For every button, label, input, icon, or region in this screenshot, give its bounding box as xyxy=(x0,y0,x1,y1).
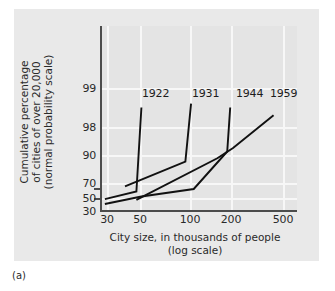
gridline-horizontal-50 xyxy=(101,198,297,200)
series-label-1931: 1931 xyxy=(192,88,219,99)
series-label-1922: 1922 xyxy=(142,88,169,99)
series-label-1959: 1959 xyxy=(270,88,297,99)
y-axis-title: Cumulative percentage of cities of over … xyxy=(18,42,54,202)
gridline-horizontal-98 xyxy=(101,127,297,129)
y-tick-label-99: 99 xyxy=(82,83,96,94)
x-axis-title-line1: City size, in thousands of people xyxy=(80,231,310,244)
x-tick-label-50: 50 xyxy=(133,214,147,226)
y-axis-title-line2: of cities of over 20,000 xyxy=(30,42,42,202)
x-tick-label-200: 200 xyxy=(221,214,241,226)
y-axis-title-line3: (normal probability scale) xyxy=(42,42,54,202)
x-axis-title: City size, in thousands of people (log s… xyxy=(80,231,310,257)
y-tick-label-30: 30 xyxy=(82,206,96,217)
x-tick-label-500: 500 xyxy=(273,214,293,226)
y-tick-label-90: 90 xyxy=(82,150,96,161)
y-axis-line xyxy=(100,26,102,212)
gridline-horizontal-70 xyxy=(101,183,297,185)
x-tick-label-30: 30 xyxy=(100,214,114,226)
y-tick-label-70: 70 xyxy=(82,178,96,189)
figure-container: 99 98 90 70 50 30 30 50 100 200 500 City… xyxy=(0,0,335,291)
y-tick-label-50: 50 xyxy=(82,193,96,204)
y-tick-label-98: 98 xyxy=(82,122,96,133)
plot-area xyxy=(101,26,297,212)
x-axis-title-line2: (log scale) xyxy=(80,244,310,257)
y-axis-title-line1: Cumulative percentage xyxy=(18,42,30,202)
series-label-1944: 1944 xyxy=(236,88,263,99)
x-axis-line xyxy=(100,210,297,212)
x-tick-label-100: 100 xyxy=(180,214,200,226)
figure-caption: (a) xyxy=(12,270,26,281)
gridline-horizontal-90 xyxy=(101,155,297,157)
